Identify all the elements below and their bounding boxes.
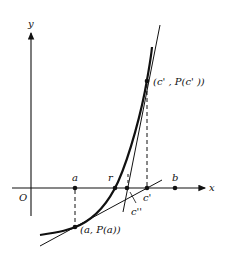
x-axis-label: x [209, 182, 215, 193]
tangent-line-at-a [40, 180, 162, 246]
c-double-prime-pointer [130, 192, 136, 203]
label-a: a [72, 172, 78, 183]
newton-method-diagram: y x O a r b c' c'' (a, P(a)) (c' , P(c' … [0, 0, 229, 261]
label-pa: (a, P(a)) [80, 224, 121, 235]
point-pa [73, 225, 78, 230]
point-b [173, 186, 178, 191]
label-b: b [172, 172, 178, 183]
point-c-prime [145, 186, 150, 191]
label-r: r [108, 172, 114, 183]
origin-label: O [19, 192, 27, 203]
point-c-double-prime [125, 186, 130, 191]
diagram-canvas: y x O a r b c' c'' (a, P(a)) (c' , P(c' … [0, 0, 229, 261]
label-c-double-prime: c'' [131, 206, 142, 217]
y-axis-label: y [27, 18, 34, 29]
point-a [73, 186, 78, 191]
label-c-prime: c' [143, 192, 151, 203]
point-pc [145, 79, 150, 84]
point-r [113, 186, 118, 191]
label-pc: (c' , P(c' )) [153, 76, 205, 87]
